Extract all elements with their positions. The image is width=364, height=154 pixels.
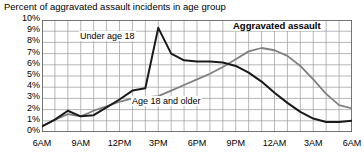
y-tick-label: 8% (27, 36, 40, 45)
y-tick-label: 1% (27, 115, 40, 124)
y-tick-label: 0% (27, 126, 40, 135)
y-tick-label: 2% (27, 104, 40, 113)
y-axis-labels: 0%1%2%3%4%5%6%7%8%9%10% (0, 14, 40, 138)
x-tick-label: 12AM (263, 138, 287, 148)
x-tick-label: 9PM (226, 138, 245, 148)
x-tick-label: 12PM (108, 138, 132, 148)
y-tick-label: 6% (27, 59, 40, 68)
x-tick-label: 6PM (188, 138, 207, 148)
annotation-aggravated-assault: Aggravated assault (232, 21, 322, 31)
x-tick-label: 6AM (343, 138, 362, 148)
aggravated-assault-chart: Percent of aggravated assault incidents … (0, 0, 364, 154)
x-tick-label: 3PM (149, 138, 168, 148)
x-tick-label: 6AM (33, 138, 52, 148)
y-tick-label: 7% (27, 48, 40, 57)
x-axis-labels: 6AM9AM12PM3PM6PM9PM12AM3AM6AM (0, 138, 364, 152)
y-tick-label: 5% (27, 70, 40, 79)
chart-title: Percent of aggravated assault incidents … (4, 1, 226, 12)
y-tick-label: 10% (22, 14, 40, 23)
y-tick-label: 4% (27, 81, 40, 90)
annotation-under-age-18: Under age 18 (79, 31, 136, 41)
x-tick-label: 9AM (71, 138, 90, 148)
x-tick-label: 3AM (304, 138, 323, 148)
y-tick-label: 3% (27, 92, 40, 101)
y-tick-label: 9% (27, 25, 40, 34)
annotation-age-18-and-older: Age 18 and older (131, 96, 202, 106)
